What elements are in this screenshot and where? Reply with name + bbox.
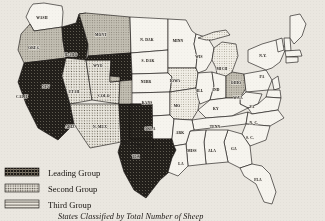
state-label-ill: ILL [197,89,204,93]
state-label-ind: IND [212,88,219,92]
state-label-fla: FLA [254,178,262,182]
state-mass[interactable] [285,50,302,57]
state-label-utah: UTAH [69,90,80,94]
state-label-idaho: IDAHO [64,53,77,57]
sheep-distribution-map: WASHOREGIDAHOMONTN. DAKS. DAKMINNWISMICH… [0,0,325,221]
state-label-wash: WASH [36,16,47,20]
legend-label-third: Third Group [48,200,91,210]
state-ndak[interactable] [130,17,168,53]
state-label-ala: ALA [208,149,216,153]
state-label-mo: MO [174,104,181,108]
state-label-ga: GA [231,147,237,151]
state-label-oreg: OREG [28,46,39,50]
state-label-wva: W.VA [233,96,243,100]
state-label-la: LA [178,162,184,166]
legend-label-leading: Leading Group [48,168,100,178]
state-label-ky: KY [213,107,219,111]
figure-caption: States Classified by Total Number of She… [58,212,203,221]
state-label-kans: KANS [142,101,153,105]
state-md-de[interactable] [266,90,281,98]
state-label-nc: N. C. [250,121,259,125]
state-label-sc: S. C. [246,136,254,140]
state-label-wis: WIS [195,55,203,59]
state-label-calif: CALIF [16,95,29,99]
state-label-colo: COLO [98,94,109,98]
state-label-sdak: S. DAK [142,59,155,63]
state-label-okla: OKLA [144,127,156,131]
state-label-ark: ARK [176,131,185,135]
state-nh[interactable] [284,38,291,51]
state-label-nebr: NEBR [141,80,152,84]
state-label-minn: MINN [173,39,184,43]
state-ala[interactable] [204,130,228,164]
state-nebr[interactable] [132,73,172,93]
state-label-ny: N.Y. [259,54,266,58]
legend-swatch-third [5,200,39,208]
state-label-wyo: WYO [93,64,103,68]
state-pa[interactable] [244,70,272,92]
state-label-ohio: OHIO [231,81,242,85]
legend-swatch-second [5,184,39,192]
state-label-mont: MONT [95,33,107,37]
legend-label-second: Second Group [48,184,97,194]
state-label-miss: MISS [187,149,197,153]
state-label-ariz: ARIZ [65,125,75,129]
legend: Leading Group Second Group Third Group [5,168,100,210]
state-label-iowa: IOWA [170,79,181,83]
state-label-va: VA [249,105,254,109]
state-oreg[interactable] [18,24,66,63]
state-label-tenn: TENN [210,125,221,129]
state-ct-ri[interactable] [286,57,298,63]
legend-swatch-leading [5,168,39,176]
state-label-nev: NEV [42,85,50,89]
state-label-tex: TEX [132,155,140,159]
state-label-ndak: N. DAK [140,38,153,42]
state-miss[interactable] [186,130,206,166]
state-label-nmex: N. MEX [93,125,107,129]
state-label-pa: PA [260,75,265,79]
state-label-mich: MICH [217,67,228,71]
